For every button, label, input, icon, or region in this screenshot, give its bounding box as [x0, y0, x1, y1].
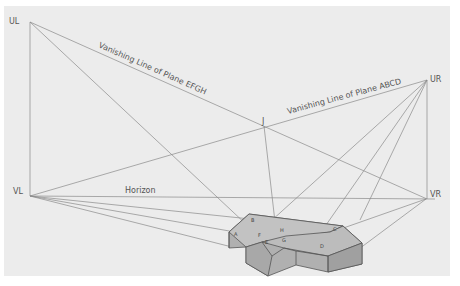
corner-b: B — [251, 217, 255, 223]
corner-f: F — [258, 232, 261, 238]
label-ur: UR — [430, 75, 442, 84]
corner-a: A — [234, 231, 238, 237]
perspective-diagram: UL UR VL VR J Horizon Vanishing Line of … — [0, 0, 460, 286]
label-horizon: Horizon — [125, 186, 156, 195]
label-efgh-line: Vanishing Line of Plane EFGH — [97, 41, 208, 97]
corner-e: E — [265, 239, 268, 245]
corner-c: C — [333, 226, 337, 232]
label-vr: VR — [430, 190, 441, 199]
label-ul: UL — [9, 17, 20, 26]
label-abcd-line: Vanishing Line of Plane ABCD — [286, 77, 402, 116]
corner-d: D — [320, 243, 324, 249]
corner-h: H — [280, 227, 284, 233]
corner-g: G — [282, 237, 286, 243]
label-j: J — [261, 117, 264, 126]
solid-object — [229, 214, 362, 276]
label-vl: VL — [13, 187, 23, 196]
